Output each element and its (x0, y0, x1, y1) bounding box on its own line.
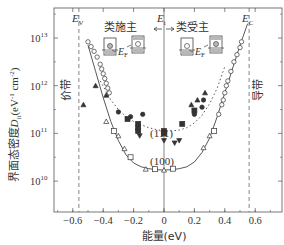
marker-circle (99, 67, 103, 71)
plot-border (54, 8, 282, 212)
marker-triangle (195, 98, 200, 103)
marker-triangle (81, 102, 86, 107)
marker-circle (98, 62, 102, 66)
marker-circle (103, 76, 107, 80)
marker-triangle (189, 102, 194, 107)
x-axis-label: 能量(eV) (142, 229, 187, 243)
marker-triangle-down (137, 134, 142, 139)
band-diagram-icon (179, 38, 195, 55)
acceptor-like-label: 类受主 (176, 20, 209, 34)
marker-circle (92, 49, 96, 53)
marker-circle (221, 98, 225, 102)
y-tick-label: 1012 (30, 79, 48, 92)
marker-circle (201, 98, 205, 102)
donor-like-label: 类施主 (104, 20, 137, 34)
band-diagram-icon (208, 36, 224, 53)
marker-triangle-down (162, 139, 167, 144)
x-tick-label: −0.6 (63, 215, 82, 226)
marker-square (180, 121, 185, 126)
x-tick-label: −0.4 (94, 215, 114, 226)
band-diagram-insets: EFEF (102, 36, 224, 59)
marker-circle (86, 40, 90, 44)
fermi-level-label: EF (117, 46, 128, 59)
y-tick-label: 1011 (30, 126, 48, 139)
marker-circle (200, 105, 204, 109)
marker-square (192, 108, 197, 113)
x-tick-label: 0 (161, 215, 166, 226)
marker-circle (89, 44, 93, 48)
filled-band (211, 49, 221, 52)
marker-triangle (93, 83, 98, 88)
filled-band (105, 51, 115, 54)
y-axis-label: 界面态密度Dit(eV-1 cm-2) (7, 67, 23, 182)
label-100: (100) (150, 155, 174, 168)
trap-state (108, 44, 113, 49)
marker-circle (223, 91, 227, 95)
marker-square (152, 167, 157, 172)
marker-circle (226, 79, 230, 83)
filled-band-top (211, 37, 221, 40)
x-tick-label: 0.6 (249, 215, 262, 226)
filled-band-top (133, 37, 143, 40)
marker-square (111, 129, 116, 134)
marker-circle (101, 72, 105, 76)
plot-frame (54, 8, 282, 212)
marker-circle (107, 91, 111, 95)
energy-line-label: EV (71, 12, 84, 27)
filled-band (182, 51, 192, 54)
marker-triangle (203, 90, 208, 95)
band-diagram-icon (102, 38, 118, 55)
data-points (81, 40, 244, 173)
x-tick-label: 0.2 (188, 215, 201, 226)
marker-circle (229, 69, 233, 73)
marker-circle (106, 86, 110, 90)
right-arrow-icon (166, 27, 174, 31)
y-tick-label: 1010 (30, 174, 48, 187)
marker-square (136, 129, 141, 134)
y-tick-label: 1013 (30, 31, 48, 44)
marker-circle (239, 40, 243, 44)
energy-level-lines: EVEiEC (71, 8, 254, 212)
marker-circle (116, 110, 120, 114)
marker-circle (141, 112, 145, 116)
trap-state (136, 42, 141, 47)
interface-state-density-chart: EVEiEC −0.6−0.4−0.200.20.40.610131012101… (0, 0, 284, 245)
filled-band (133, 49, 143, 52)
marker-triangle-down (172, 141, 177, 146)
marker-triangle (104, 119, 109, 124)
marker-circle (232, 60, 236, 64)
fit-curve-111 (100, 67, 225, 131)
fermi-level-label: EF (194, 46, 205, 59)
label-111: (111) (150, 127, 173, 140)
conduction-band-label: 导带 (252, 79, 265, 101)
trap-state (185, 44, 190, 49)
marker-circle (220, 103, 224, 107)
valence-band-label: 价带 (60, 79, 73, 101)
marker-square (128, 155, 133, 160)
marker-square (212, 129, 217, 134)
marker-circle (104, 81, 108, 85)
axis-ticks: −0.6−0.4−0.200.20.40.61013101210111010 (30, 8, 282, 226)
marker-square (125, 117, 130, 122)
marker-circle (235, 52, 239, 56)
left-arrow-icon (154, 27, 162, 31)
marker-circle (95, 55, 99, 59)
band-diagram-icon (130, 36, 146, 53)
x-tick-label: 0.4 (218, 215, 232, 226)
trap-state (214, 42, 219, 47)
marker-circle (217, 112, 221, 116)
marker-circle (238, 45, 242, 49)
marker-circle (224, 84, 228, 88)
x-tick-label: −0.2 (124, 215, 143, 226)
